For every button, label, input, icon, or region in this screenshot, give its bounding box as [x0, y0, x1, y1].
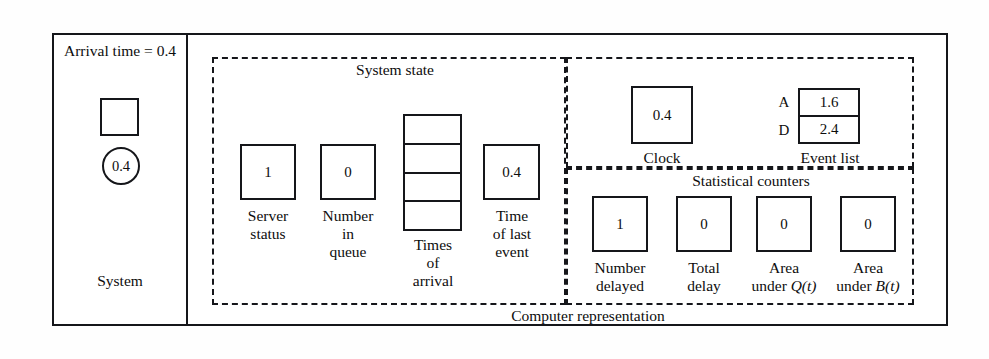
number-in-queue-label: Number in queue	[310, 207, 386, 261]
arrival-time-title: Arrival time = 0.4	[56, 41, 184, 61]
computer-representation-label: Computer representation	[463, 307, 713, 325]
event-list-label: Event list	[784, 149, 876, 167]
number-delayed-label: Number delayed	[582, 259, 658, 295]
customer-entity-value: 0.4	[112, 158, 130, 175]
area-under-q-value: 0	[780, 217, 788, 232]
clock-box: 0.4	[631, 86, 693, 144]
time-of-last-event-box: 0.4	[483, 144, 540, 200]
times-of-arrival-slot	[405, 145, 460, 174]
number-in-queue-value: 0	[344, 165, 352, 180]
area-under-q-label: Area under Q(t)	[744, 259, 824, 295]
total-delay-box: 0	[676, 196, 732, 252]
event-list-key-departure: D	[775, 122, 793, 139]
total-delay-label: Total delay	[666, 259, 742, 295]
area-under-q-label-math: Q(t)	[791, 277, 817, 294]
times-of-arrival-slot	[405, 116, 460, 145]
figure-canvas: Arrival time = 0.4 0.4 System System sta…	[0, 0, 989, 359]
event-list-value-departure: 2.4	[820, 121, 839, 138]
clock-value: 0.4	[653, 108, 672, 123]
server-status-label: Server status	[232, 207, 304, 243]
event-list-value-arrival: 1.6	[820, 94, 839, 111]
total-delay-value: 0	[700, 217, 708, 232]
number-delayed-box: 1	[592, 196, 648, 252]
time-of-last-event-value: 0.4	[502, 165, 521, 180]
times-of-arrival-stack	[403, 114, 462, 231]
server-status-box: 1	[240, 144, 296, 200]
event-list-key-arrival: A	[775, 94, 793, 111]
server-entity-square	[100, 98, 139, 136]
event-list-row-arrival: 1.6	[800, 90, 858, 117]
area-under-b-label: Area under B(t)	[828, 259, 908, 295]
times-of-arrival-label: Times of arrival	[396, 236, 470, 290]
time-of-last-event-label: Time of last event	[474, 207, 550, 261]
system-state-region-label: System state	[318, 62, 472, 78]
times-of-arrival-slot	[405, 174, 460, 203]
area-under-q-box: 0	[756, 196, 812, 252]
system-panel-label: System	[56, 272, 184, 290]
times-of-arrival-slot	[405, 202, 460, 229]
number-delayed-value: 1	[616, 217, 624, 232]
panel-divider	[186, 33, 188, 326]
area-under-b-label-math: B(t)	[876, 277, 900, 294]
server-status-value: 1	[264, 165, 272, 180]
clock-label: Clock	[622, 149, 702, 167]
customer-entity-circle: 0.4	[102, 147, 140, 185]
area-under-b-value: 0	[864, 217, 872, 232]
area-under-b-box: 0	[840, 196, 896, 252]
number-in-queue-box: 0	[320, 144, 376, 200]
statistical-counters-region-label: Statistical counters	[655, 173, 847, 189]
event-list-row-departure: 2.4	[800, 117, 858, 142]
event-list-table: 1.6 2.4	[798, 88, 860, 144]
